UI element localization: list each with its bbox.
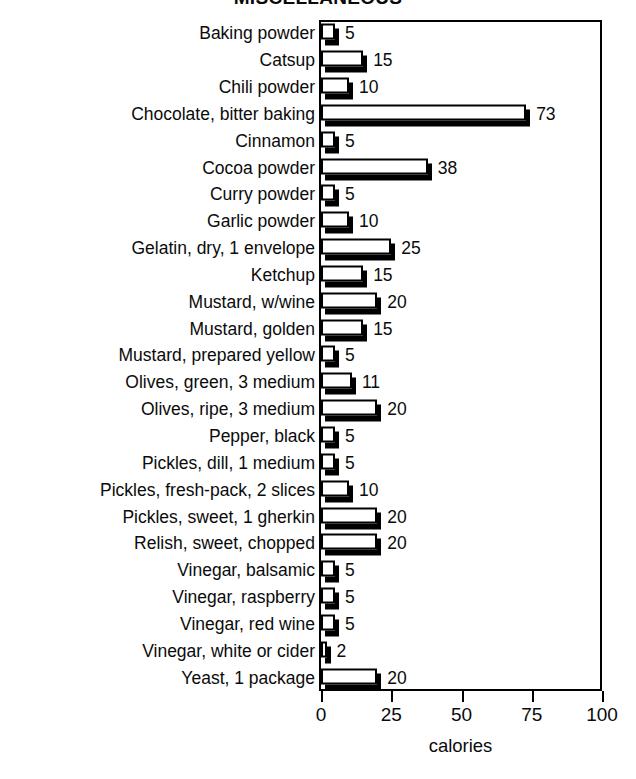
bar	[321, 561, 335, 580]
category-label: Gelatin, dry, 1 envelope	[131, 239, 315, 258]
bar-row: Mustard, w/wine20	[0, 288, 636, 315]
bar-row: Cocoa powder38	[0, 154, 636, 181]
bar-row: Olives, green, 3 medium11	[0, 369, 636, 396]
bar-value-label: 15	[373, 51, 392, 70]
x-axis-tick-label: 50	[451, 704, 472, 726]
x-axis-tick-label: 100	[586, 704, 618, 726]
category-label: Mustard, golden	[190, 319, 316, 338]
x-axis-tick	[462, 691, 464, 702]
bar-value-label: 73	[536, 104, 555, 123]
bar-row: Mustard, golden15	[0, 315, 636, 342]
bar-row: Mustard, prepared yellow5	[0, 342, 636, 369]
bar-face	[321, 507, 377, 523]
x-axis-tick	[391, 691, 393, 702]
bar-value-label: 10	[359, 480, 378, 499]
bar-row: Pickles, sweet, 1 gherkin20	[0, 503, 636, 530]
bar-row: Pickles, fresh-pack, 2 slices10	[0, 476, 636, 503]
x-axis-title: calories	[319, 735, 602, 756]
category-label: Olives, ripe, 3 medium	[141, 400, 315, 419]
bar-face	[321, 239, 391, 255]
bar-face	[321, 614, 335, 630]
bar-value-label: 20	[387, 668, 406, 687]
bar-row: Yeast, 1 package20	[0, 664, 636, 691]
bar-row: Chili powder10	[0, 74, 636, 101]
category-label: Mustard, prepared yellow	[119, 346, 315, 365]
category-label: Yeast, 1 package	[181, 668, 315, 687]
bar	[321, 641, 327, 660]
bar-row: Vinegar, red wine5	[0, 610, 636, 637]
category-label: Catsup	[260, 51, 315, 70]
bar-face	[321, 373, 352, 389]
bar	[321, 104, 526, 123]
bar-value-label: 11	[362, 373, 380, 392]
bar	[321, 373, 352, 392]
x-axis-tick	[602, 691, 604, 702]
category-label: Garlic powder	[207, 212, 315, 231]
bar-row: Garlic powder10	[0, 208, 636, 235]
bar-face	[321, 534, 377, 550]
chart-root: MISCELLANEOUS Baking powder5Catsup15Chil…	[0, 0, 636, 779]
x-axis-tick	[532, 691, 534, 702]
bar-face	[321, 185, 335, 201]
category-label: Curry powder	[210, 185, 315, 204]
bar	[321, 265, 363, 284]
bar	[321, 346, 335, 365]
bar-face	[321, 480, 349, 496]
bar	[321, 319, 363, 338]
bar-value-label: 5	[345, 131, 355, 150]
bar-row: Pepper, black5	[0, 423, 636, 450]
bar	[321, 668, 377, 687]
bar-row: Vinegar, balsamic5	[0, 557, 636, 584]
chart-title: MISCELLANEOUS	[0, 0, 636, 9]
bar-row: Cinnamon5	[0, 127, 636, 154]
bar	[321, 480, 349, 499]
bar-row: Vinegar, raspberry5	[0, 584, 636, 611]
category-label: Vinegar, white or cider	[142, 641, 315, 660]
category-label: Chocolate, bitter baking	[131, 104, 315, 123]
bar-face	[321, 346, 335, 362]
category-label: Chili powder	[219, 78, 315, 97]
bar-value-label: 25	[401, 239, 420, 258]
category-label: Vinegar, red wine	[180, 614, 315, 633]
bar	[321, 24, 335, 43]
bar-face	[321, 588, 335, 604]
bar-row: Chocolate, bitter baking73	[0, 101, 636, 128]
bar-row: Baking powder5	[0, 20, 636, 47]
bar-face	[321, 265, 363, 281]
bar-row: Pickles, dill, 1 medium5	[0, 449, 636, 476]
bar-value-label: 10	[359, 212, 378, 231]
category-label: Pickles, sweet, 1 gherkin	[122, 507, 315, 526]
x-axis-tick-label: 75	[521, 704, 542, 726]
bar-row: Vinegar, white or cider2	[0, 637, 636, 664]
bar-value-label: 10	[359, 78, 378, 97]
bar-rows-container: Baking powder5Catsup15Chili powder10Choc…	[0, 20, 636, 691]
x-axis-tick-label: 0	[316, 704, 327, 726]
bar	[321, 400, 377, 419]
bar-face	[321, 24, 335, 40]
bar-face	[321, 319, 363, 335]
bar-row: Ketchup15	[0, 262, 636, 289]
bar-face	[321, 453, 335, 469]
bar-face	[321, 427, 335, 443]
bar-face	[321, 641, 327, 657]
category-label: Cocoa powder	[202, 158, 315, 177]
category-label: Vinegar, raspberry	[172, 588, 315, 607]
bar	[321, 588, 335, 607]
bar	[321, 292, 377, 311]
bar	[321, 78, 349, 97]
bar-value-label: 2	[337, 641, 347, 660]
bar-row: Curry powder5	[0, 181, 636, 208]
bar-value-label: 38	[438, 158, 457, 177]
category-label: Olives, green, 3 medium	[125, 373, 315, 392]
bar-face	[321, 51, 363, 67]
bar	[321, 239, 391, 258]
bar-value-label: 20	[387, 534, 406, 553]
category-label: Baking powder	[199, 24, 315, 43]
bar-value-label: 5	[345, 24, 355, 43]
bar	[321, 185, 335, 204]
bar-face	[321, 78, 349, 94]
bar-row: Catsup15	[0, 47, 636, 74]
bar-value-label: 15	[373, 265, 392, 284]
bar-face	[321, 400, 377, 416]
bar-row: Gelatin, dry, 1 envelope25	[0, 235, 636, 262]
